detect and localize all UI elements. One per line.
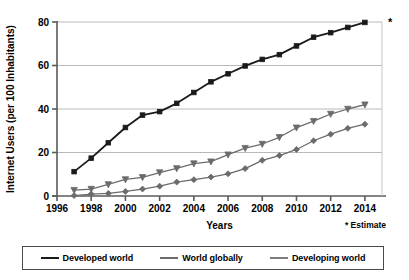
chart-figure: 0204060801996199820002002200420062008201… (0, 0, 409, 280)
x-tick-label-1998: 1998 (80, 203, 103, 214)
x-tick-label-1996: 1996 (46, 203, 69, 214)
estimate-note: * Estimate (345, 220, 386, 230)
data-point (89, 156, 94, 161)
data-point (72, 169, 77, 174)
data-point (140, 113, 145, 118)
data-point (345, 125, 351, 131)
data-point (259, 157, 265, 163)
data-point (293, 146, 299, 152)
data-point (277, 52, 282, 57)
data-point (208, 174, 214, 180)
data-point (226, 71, 231, 76)
y-tick-label-80: 80 (38, 17, 50, 28)
data-point (122, 188, 128, 194)
data-point (71, 193, 77, 199)
data-point (311, 35, 316, 40)
series-world-globally (71, 102, 368, 194)
data-point (345, 25, 350, 30)
legend-label-developing-world: Developing world (292, 253, 365, 263)
data-point (192, 90, 197, 95)
y-tick-label-0: 0 (43, 191, 49, 202)
series-developed-world (72, 20, 367, 174)
y-tick-label-40: 40 (38, 104, 50, 115)
data-point (311, 138, 317, 144)
y-tick-label-60: 60 (38, 60, 50, 71)
data-point (174, 179, 180, 185)
data-point (294, 44, 299, 49)
data-point (123, 125, 128, 130)
data-point (362, 121, 368, 127)
legend-swatch-world-globally (160, 257, 178, 259)
data-point (242, 166, 248, 172)
data-point (363, 20, 368, 25)
chart-plot-area: 0204060801996199820002002200420062008201… (0, 0, 409, 236)
x-tick-label-2014: 2014 (354, 203, 377, 214)
series-line (74, 22, 365, 171)
legend-item-world-globally: World globally (160, 253, 242, 263)
data-point (276, 153, 282, 159)
series-line (74, 105, 365, 190)
legend-item-developing-world: Developing world (270, 253, 365, 263)
x-tick-label-2000: 2000 (114, 203, 137, 214)
legend-swatch-developed-world (41, 257, 59, 259)
data-point (225, 171, 231, 177)
data-point (191, 177, 197, 183)
data-point (174, 101, 179, 106)
legend-swatch-developing-world (270, 257, 288, 259)
data-point (328, 131, 334, 137)
x-tick-label-2006: 2006 (217, 203, 240, 214)
legend-label-developed-world: Developed world (63, 253, 134, 263)
x-tick-label-2004: 2004 (183, 203, 206, 214)
legend-label-world-globally: World globally (182, 253, 242, 263)
data-point (157, 109, 162, 114)
data-point (243, 64, 248, 69)
data-point (293, 125, 299, 131)
line-chart-svg: 0204060801996199820002002200420062008201… (0, 0, 409, 236)
x-tick-label-2002: 2002 (149, 203, 172, 214)
data-point (157, 183, 163, 189)
data-point (140, 186, 146, 192)
chart-legend: Developed world World globally Developin… (22, 246, 384, 270)
data-point (328, 30, 333, 35)
y-axis-title: Internet Users (per 100 Inhabitants) (5, 25, 16, 193)
y-tick-label-20: 20 (38, 147, 50, 158)
data-point (209, 80, 214, 85)
x-tick-label-2012: 2012 (320, 203, 343, 214)
series-developing-world (71, 121, 368, 198)
data-point (260, 57, 265, 62)
x-axis-title: Years (206, 220, 233, 231)
legend-item-developed-world: Developed world (41, 253, 134, 263)
data-point (106, 140, 111, 145)
estimate-asterisk: * (388, 16, 393, 28)
x-tick-label-2010: 2010 (285, 203, 308, 214)
x-tick-label-2008: 2008 (251, 203, 274, 214)
